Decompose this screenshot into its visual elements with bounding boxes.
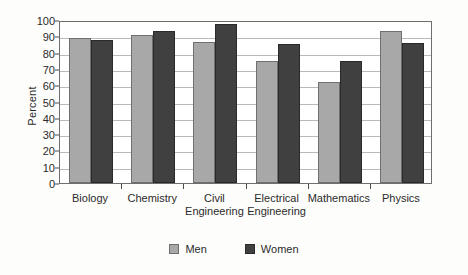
- y-axis-tick-label: 0: [29, 178, 55, 190]
- x-axis-tick-mark: [246, 184, 247, 189]
- y-axis-tick-labels: 0102030405060708090100: [27, 0, 55, 275]
- y-axis-tick-mark: [55, 53, 59, 54]
- bar-group: [247, 22, 309, 183]
- legend-label: Women: [261, 243, 299, 255]
- y-axis-tick-label: 20: [29, 145, 55, 157]
- bar-women: [340, 61, 362, 183]
- bar-men: [318, 82, 340, 183]
- y-axis-tick-mark: [55, 151, 59, 152]
- bar-group: [309, 22, 371, 183]
- bar-group: [371, 22, 433, 183]
- y-axis-tick-label: 80: [29, 48, 55, 60]
- x-axis-tick-mark: [121, 184, 122, 189]
- y-axis-tick-label: 40: [29, 113, 55, 125]
- y-axis-tick-label: 10: [29, 162, 55, 174]
- y-axis-tick-mark: [55, 102, 59, 103]
- y-axis-tick-mark: [55, 118, 59, 119]
- x-axis-tick-mark: [183, 184, 184, 189]
- legend-item-men[interactable]: Men: [169, 243, 206, 255]
- bar-men: [69, 38, 91, 183]
- x-axis-label: Physics: [370, 192, 432, 205]
- y-axis-tick-label: 70: [29, 64, 55, 76]
- legend-item-women[interactable]: Women: [245, 243, 299, 255]
- bar-men: [131, 35, 153, 183]
- y-axis-tick-mark: [55, 167, 59, 168]
- bar-men: [193, 42, 215, 183]
- legend-label: Men: [185, 243, 206, 255]
- chart-legend: MenWomen: [0, 243, 468, 255]
- bar-group: [122, 22, 184, 183]
- plot-area: [59, 21, 432, 184]
- x-axis-label: Mathematics: [308, 192, 370, 205]
- y-axis-tick-label: 30: [29, 129, 55, 141]
- y-axis-tick-mark: [55, 184, 59, 185]
- x-axis-label: Chemistry: [121, 192, 183, 205]
- bar-group: [184, 22, 246, 183]
- bar-men: [256, 61, 278, 183]
- y-axis-tick-label: 50: [29, 97, 55, 109]
- y-axis-tick-label: 90: [29, 31, 55, 43]
- bar-women: [402, 43, 424, 183]
- x-axis-tick-mark: [370, 184, 371, 189]
- bar-group: [60, 22, 122, 183]
- x-axis-label: Civil Engineering: [183, 192, 245, 217]
- y-axis-tick-mark: [55, 69, 59, 70]
- bar-women: [91, 40, 113, 183]
- y-axis-tick-mark: [55, 86, 59, 87]
- bar-women: [215, 24, 237, 183]
- women-swatch: [245, 244, 255, 254]
- bar-women: [278, 44, 300, 183]
- y-axis-tick-mark: [55, 21, 59, 22]
- bar-men: [380, 31, 402, 183]
- men-swatch: [169, 244, 179, 254]
- x-axis-label: Biology: [59, 192, 121, 205]
- y-axis-tick-label: 60: [29, 80, 55, 92]
- x-axis-tick-mark: [308, 184, 309, 189]
- y-axis-tick-mark: [55, 135, 59, 136]
- y-axis-tick-label: 100: [29, 15, 55, 27]
- x-axis-label: Electrical Engineering: [246, 192, 308, 217]
- y-axis-tick-mark: [55, 37, 59, 38]
- bar-women: [153, 31, 175, 183]
- bar-chart: Percent 0102030405060708090100 BiologyCh…: [0, 0, 468, 275]
